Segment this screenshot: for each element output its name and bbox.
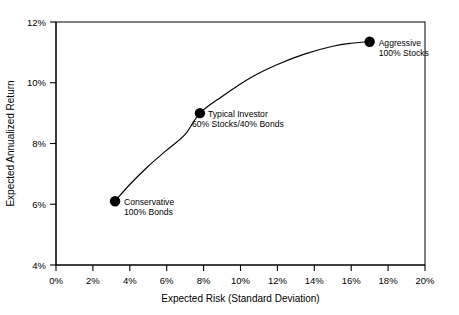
- data-point-marker[interactable]: [195, 108, 205, 118]
- x-tick-label: 12%: [268, 275, 288, 286]
- x-tick-label: 10%: [231, 275, 251, 286]
- data-point-label: 60% Stocks/40% Bonds: [192, 119, 284, 129]
- data-point-marker[interactable]: [364, 37, 374, 47]
- y-tick-label: 8%: [32, 138, 46, 149]
- y-tick-label: 6%: [32, 199, 46, 210]
- y-tick-label: 4%: [32, 260, 46, 271]
- y-tick-label: 12%: [27, 17, 47, 28]
- x-tick-label: 16%: [342, 275, 362, 286]
- data-point-label: Conservative: [124, 197, 174, 207]
- data-point-label: 100% Stocks: [379, 48, 429, 58]
- x-axis-title: Expected Risk (Standard Deviation): [161, 293, 319, 304]
- y-axis-title: Expected Annualized Return: [5, 80, 16, 206]
- chart-container: 12% 10% 8% 6% 4% 0% 2% 4% 6% 8%: [0, 0, 459, 315]
- x-tick-label: 14%: [305, 275, 325, 286]
- data-point-label: 100% Bonds: [124, 207, 173, 217]
- x-axis-tick-labels: 0% 2% 4% 6% 8% 10% 12% 14% 16% 18% 20%: [49, 275, 435, 286]
- x-tick-label: 4%: [123, 275, 137, 286]
- data-point-label: Aggressive: [379, 38, 422, 48]
- x-axis-ticks: [56, 265, 425, 271]
- data-point-label: Typical Investor: [208, 109, 268, 119]
- efficient-frontier-chart: 12% 10% 8% 6% 4% 0% 2% 4% 6% 8%: [0, 0, 459, 315]
- x-tick-label: 2%: [86, 275, 100, 286]
- data-point-group: Conservative100% BondsTypical Investor60…: [110, 37, 429, 218]
- y-tick-label: 10%: [27, 77, 47, 88]
- x-tick-label: 6%: [160, 275, 174, 286]
- x-tick-label: 20%: [415, 275, 435, 286]
- y-axis-tick-labels: 12% 10% 8% 6% 4%: [27, 17, 47, 271]
- x-tick-label: 0%: [49, 275, 63, 286]
- y-axis-ticks: [50, 22, 56, 265]
- x-tick-label: 8%: [197, 275, 211, 286]
- x-tick-label: 18%: [379, 275, 399, 286]
- data-point-marker[interactable]: [110, 196, 120, 206]
- plot-area-border: [56, 22, 425, 265]
